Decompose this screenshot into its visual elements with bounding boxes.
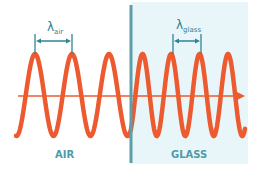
wave-diagram: λair λglass AIR GLASS (0, 0, 269, 176)
region-label-glass: GLASS (171, 149, 207, 160)
lambda-air-bracket (35, 34, 72, 54)
lambda-air-label: λair (47, 20, 63, 36)
region-label-air: AIR (55, 149, 74, 160)
